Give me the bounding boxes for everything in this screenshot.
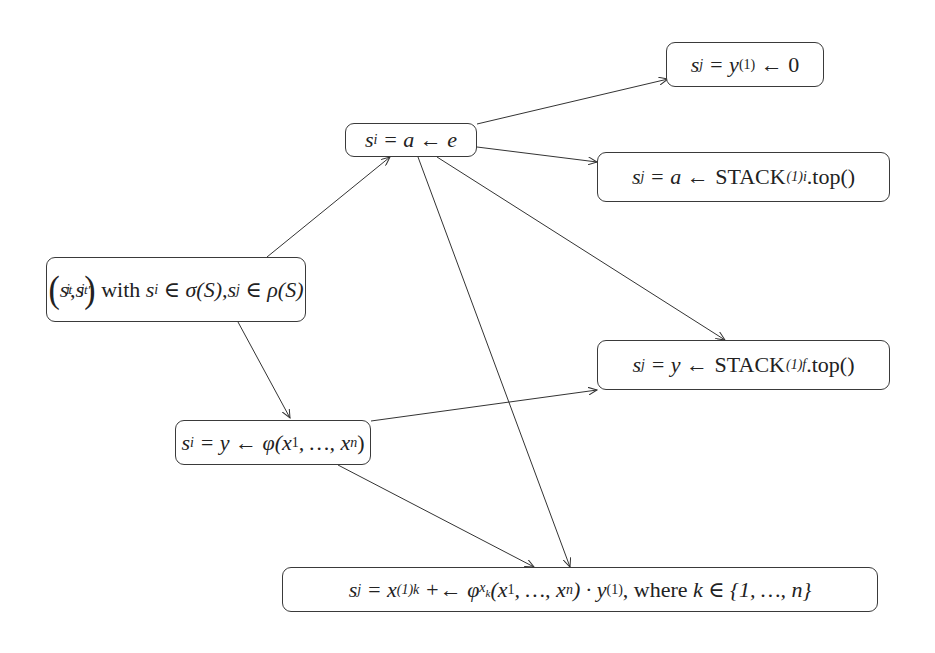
node-stack-f: sj = y ← STACK(1)f.top() <box>597 340 890 390</box>
edge-phi-to-stack-f <box>371 390 597 421</box>
edge-layer <box>0 0 935 653</box>
edge-root-to-phi <box>238 322 290 418</box>
node-grad: sj = x(1)k +← φxk(x1, …, xn) · y(1), whe… <box>282 567 878 612</box>
node-stack-i: sj = a ← STACK(1)i.top() <box>597 152 890 202</box>
edge-assign-a-to-stack-i <box>477 147 597 162</box>
edge-root-to-assign-a <box>267 157 390 257</box>
edge-assign-a-to-y1-zero <box>477 79 668 124</box>
node-assign-a: si = a ← e <box>345 123 477 157</box>
edge-assign-a-to-grad <box>418 157 570 567</box>
node-root: ( sti, st′j ) with si ∈ σ(S), sj ∈ ρ(S) <box>46 257 306 322</box>
node-phi: si = y ← φ(x1, …, xn) <box>175 420 371 465</box>
edge-phi-to-grad <box>338 465 534 567</box>
node-y1-zero: sj = y(1) ← 0 <box>666 42 824 87</box>
